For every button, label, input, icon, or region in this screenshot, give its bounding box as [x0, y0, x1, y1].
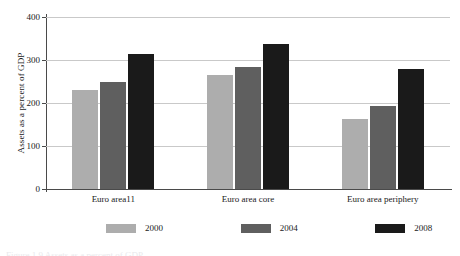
bar-2004-euro-area-core — [235, 67, 261, 189]
y-tick-label: 200 — [27, 99, 41, 108]
y-tick-mark — [42, 189, 46, 190]
bar-group — [72, 17, 154, 189]
legend-item-2008[interactable]: 2008 — [375, 222, 432, 234]
x-axis-line — [46, 189, 452, 190]
bar-2008-euro-area-periphery — [398, 69, 424, 189]
chart-legend: 200020042008 — [46, 222, 450, 234]
plot-area: 0100200300400 — [46, 17, 450, 189]
chart-figure: Assets as a percent of GDP 0100200300400… — [0, 0, 460, 256]
bar-2004-euro-area-periphery — [370, 106, 396, 189]
bar-2000-euro-area-periphery — [342, 119, 368, 189]
legend-label: 2000 — [145, 224, 163, 233]
legend-swatch-icon — [106, 224, 136, 233]
x-axis-label-2: Euro area periphery — [315, 194, 450, 205]
bar-2008-euro-area-core — [263, 44, 289, 189]
bar-group — [207, 17, 289, 189]
y-tick-label: 100 — [27, 142, 41, 151]
legend-swatch-icon — [241, 224, 271, 233]
x-axis-label-0: Euro area11 — [46, 194, 181, 205]
y-tick-mark — [42, 17, 46, 18]
figure-caption-sliver: Figure 1.9 Assets as a percent of GDP — [6, 250, 426, 256]
x-axis-label-1: Euro area core — [181, 194, 316, 205]
legend-label: 2004 — [280, 224, 298, 233]
y-tick-label: 0 — [36, 185, 41, 194]
legend-item-2004[interactable]: 2004 — [241, 222, 298, 234]
y-tick-mark — [42, 103, 46, 104]
y-tick-label: 400 — [27, 13, 41, 22]
bar-2000-euro-area11 — [72, 90, 98, 189]
y-tick-mark — [42, 60, 46, 61]
bar-2008-euro-area11 — [128, 54, 154, 189]
y-tick-mark — [42, 146, 46, 147]
bar-group — [342, 17, 424, 189]
legend-item-2000[interactable]: 2000 — [106, 222, 163, 234]
legend-swatch-icon — [375, 224, 405, 233]
bar-2000-euro-area-core — [207, 75, 233, 189]
y-tick-label: 300 — [27, 56, 41, 65]
bar-2004-euro-area11 — [100, 82, 126, 190]
legend-label: 2008 — [414, 224, 432, 233]
